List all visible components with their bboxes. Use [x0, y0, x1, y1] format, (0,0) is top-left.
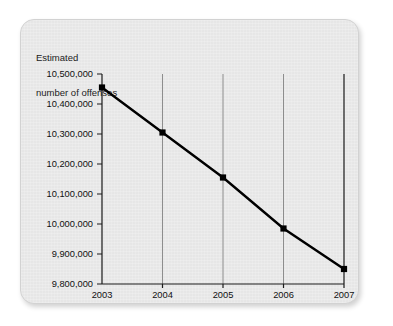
- plot-area: 10,500,00010,400,00010,300,00010,200,000…: [21, 20, 358, 303]
- y-tick-label: 10,500,000: [21, 69, 93, 79]
- chart-card: Estimated number of offenses 10,500,0001…: [20, 19, 359, 304]
- x-tick-label: 2006: [273, 290, 294, 300]
- y-tick-label: 10,300,000: [21, 129, 93, 139]
- data-point-marker-2003: [99, 84, 105, 90]
- y-tick-label: 9,900,000: [21, 249, 93, 259]
- data-point-marker-2006: [280, 225, 286, 231]
- data-point-marker-2004: [159, 129, 165, 135]
- figure-root: Estimated number of offenses 10,500,0001…: [0, 0, 393, 326]
- y-tick-label: 9,800,000: [21, 279, 93, 289]
- x-tick-label: 2003: [92, 290, 113, 300]
- y-tick-label: 10,200,000: [21, 159, 93, 169]
- x-tick-label: 2004: [152, 290, 173, 300]
- y-tick-label: 10,400,000: [21, 99, 93, 109]
- data-point-marker-2005: [220, 174, 226, 180]
- data-point-marker-2007: [341, 266, 347, 272]
- x-tick-label: 2007: [334, 290, 355, 300]
- x-tick-label: 2005: [213, 290, 234, 300]
- y-tick-label: 10,100,000: [21, 189, 93, 199]
- y-tick-label: 10,000,000: [21, 219, 93, 229]
